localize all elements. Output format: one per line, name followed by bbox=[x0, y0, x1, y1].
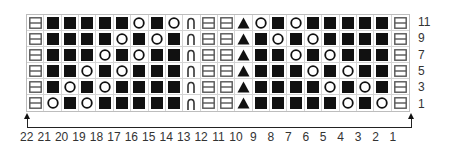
open-circle-icon bbox=[81, 97, 93, 109]
open-circle-icon bbox=[307, 33, 319, 45]
column-labels: 22212019181716151413121110987654321 bbox=[18, 130, 418, 146]
filled-square-icon bbox=[359, 49, 371, 61]
filled-square-icon bbox=[168, 33, 180, 45]
filled-square-icon bbox=[47, 81, 59, 93]
chart-cell bbox=[166, 63, 183, 79]
bar-box-icon bbox=[29, 65, 42, 77]
chart-cell bbox=[149, 31, 166, 47]
chart-cell bbox=[357, 31, 374, 47]
open-circle-icon bbox=[324, 81, 336, 93]
chart-cell bbox=[305, 47, 322, 63]
open-circle-icon bbox=[116, 65, 128, 77]
open-circle-icon bbox=[324, 49, 336, 61]
open-circle-icon bbox=[133, 49, 145, 61]
column-label: 7 bbox=[280, 130, 297, 146]
filled-square-icon bbox=[290, 81, 302, 93]
open-circle-icon bbox=[81, 65, 93, 77]
chart-cell bbox=[374, 63, 391, 79]
column-label: 13 bbox=[175, 130, 192, 146]
filled-square-icon bbox=[307, 49, 319, 61]
filled-square-icon bbox=[307, 17, 319, 29]
filled-square-icon bbox=[168, 49, 180, 61]
arch-icon bbox=[186, 16, 196, 29]
chart-cell bbox=[201, 63, 218, 79]
filled-square-icon bbox=[376, 81, 388, 93]
chart-cell bbox=[392, 79, 409, 95]
chart-cell bbox=[149, 63, 166, 79]
column-label: 11 bbox=[210, 130, 227, 146]
chart-cell bbox=[79, 79, 96, 95]
chart-cell bbox=[201, 95, 218, 111]
filled-square-icon bbox=[151, 49, 163, 61]
open-circle-icon bbox=[99, 81, 111, 93]
chart-cell bbox=[253, 15, 270, 31]
chart-cell bbox=[357, 79, 374, 95]
filled-square-icon bbox=[168, 97, 180, 109]
open-circle-icon bbox=[168, 17, 180, 29]
chart-cell bbox=[79, 31, 96, 47]
chart-cell bbox=[235, 15, 252, 31]
chart-cell bbox=[201, 15, 218, 31]
column-label: 10 bbox=[227, 130, 244, 146]
bar-box-icon bbox=[394, 33, 407, 45]
bar-box-icon bbox=[220, 65, 233, 77]
filled-square-icon bbox=[47, 49, 59, 61]
open-circle-icon bbox=[99, 49, 111, 61]
chart-cell bbox=[62, 63, 79, 79]
chart-cell bbox=[183, 31, 200, 47]
row-label: 1 bbox=[418, 96, 448, 112]
column-label: 9 bbox=[245, 130, 262, 146]
chart-cell bbox=[96, 15, 113, 31]
column-label: 22 bbox=[18, 130, 35, 146]
chart-cell bbox=[235, 79, 252, 95]
filled-square-icon bbox=[307, 81, 319, 93]
chart-cell bbox=[253, 47, 270, 63]
chart-cell bbox=[96, 63, 113, 79]
filled-square-icon bbox=[133, 65, 145, 77]
chart-cell bbox=[166, 79, 183, 95]
filled-square-icon bbox=[64, 17, 76, 29]
bar-box-icon bbox=[202, 33, 215, 45]
chart-cell bbox=[374, 79, 391, 95]
bar-box-icon bbox=[202, 97, 215, 109]
chart-cell bbox=[287, 31, 304, 47]
filled-square-icon bbox=[116, 81, 128, 93]
filled-square-icon bbox=[81, 49, 93, 61]
column-label: 17 bbox=[105, 130, 122, 146]
chart-cell bbox=[253, 63, 270, 79]
chart-cell bbox=[270, 79, 287, 95]
chart-cell bbox=[287, 63, 304, 79]
column-label: 12 bbox=[192, 130, 209, 146]
row-labels: 1197531 bbox=[418, 14, 448, 112]
filled-square-icon bbox=[133, 97, 145, 109]
filled-square-icon bbox=[324, 97, 336, 109]
row-label: 5 bbox=[418, 63, 448, 79]
chart-cell bbox=[27, 31, 44, 47]
chart-cell bbox=[322, 31, 339, 47]
open-circle-icon bbox=[376, 97, 388, 109]
column-label: 19 bbox=[70, 130, 87, 146]
filled-square-icon bbox=[81, 81, 93, 93]
chart-cell bbox=[131, 95, 148, 111]
column-label: 2 bbox=[367, 130, 384, 146]
bar-box-icon bbox=[394, 65, 407, 77]
filled-square-icon bbox=[342, 33, 354, 45]
filled-triangle-icon bbox=[237, 65, 250, 77]
chart-cell bbox=[270, 95, 287, 111]
knitting-chart bbox=[26, 14, 410, 112]
filled-square-icon bbox=[359, 17, 371, 29]
filled-square-icon bbox=[359, 97, 371, 109]
chart-cell bbox=[235, 63, 252, 79]
filled-square-icon bbox=[376, 33, 388, 45]
bar-box-icon bbox=[29, 49, 42, 61]
filled-square-icon bbox=[359, 33, 371, 45]
chart-cell bbox=[340, 31, 357, 47]
chart-cell bbox=[305, 63, 322, 79]
filled-square-icon bbox=[359, 65, 371, 77]
bar-box-icon bbox=[29, 33, 42, 45]
filled-square-icon bbox=[64, 49, 76, 61]
chart-grid bbox=[26, 14, 410, 112]
chart-cell bbox=[131, 31, 148, 47]
chart-cell bbox=[357, 95, 374, 111]
chart-cell bbox=[357, 63, 374, 79]
